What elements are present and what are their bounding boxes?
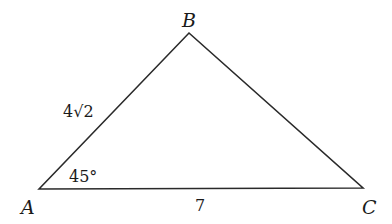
side-ac-length: 7 bbox=[195, 196, 205, 215]
angle-a-measure: 45° bbox=[69, 167, 97, 186]
vertex-label-c: C bbox=[362, 196, 377, 218]
side-ab-length: 4√2 bbox=[63, 102, 94, 121]
vertex-label-a: A bbox=[19, 196, 35, 218]
triangle-diagram: B A C 4√2 45° 7 bbox=[0, 0, 392, 224]
vertex-label-b: B bbox=[181, 9, 196, 31]
